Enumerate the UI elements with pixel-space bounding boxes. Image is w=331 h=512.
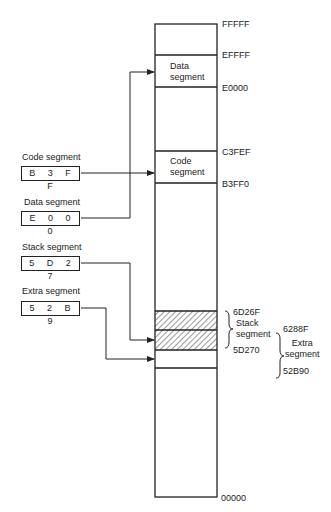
code-segment-line1: Code — [170, 156, 205, 167]
data-segment-line1: Data — [170, 61, 205, 72]
extra-segment-brace-label: Extra segment — [285, 338, 320, 360]
address-6288f: 6288F — [283, 324, 309, 334]
stack-segment-label: Stack segment — [22, 242, 82, 252]
extra-segment-line1: Extra — [285, 338, 320, 349]
data-segment-line2: segment — [170, 72, 205, 83]
code-segment-label: Code segment — [22, 152, 81, 162]
stack-segment-line1: Stack — [236, 318, 271, 329]
extra-segment-line2: segment — [285, 349, 320, 360]
address-c3fef: C3FEF — [222, 147, 251, 157]
stack-segment-brace-label: Stack segment — [236, 318, 271, 340]
address-5d270: 5D270 — [233, 345, 260, 355]
address-e0000: E0000 — [222, 83, 248, 93]
address-6d26f: 6D26F — [233, 307, 260, 317]
address-effff: EFFFF — [222, 50, 250, 60]
address-52b90: 52B90 — [283, 366, 309, 376]
address-00000: 00000 — [221, 493, 246, 503]
stack-segment-line2: segment — [236, 329, 271, 340]
data-segment-block-label: Data segment — [170, 61, 205, 83]
address-fffff: FFFFF — [222, 19, 250, 29]
code-segment-line2: segment — [170, 167, 205, 178]
extra-segment-label: Extra segment — [22, 286, 80, 296]
code-segment-block-label: Code segment — [170, 156, 205, 178]
data-segment-label: Data segment — [24, 197, 80, 207]
stack-segment-register: 5 D 2 7 — [21, 256, 80, 271]
data-segment-register: E 0 0 0 — [21, 211, 80, 226]
address-b3ff0: B3FF0 — [222, 179, 249, 189]
extra-segment-register: 5 2 B 9 — [21, 301, 80, 316]
code-segment-register: B 3 F F — [21, 166, 80, 181]
